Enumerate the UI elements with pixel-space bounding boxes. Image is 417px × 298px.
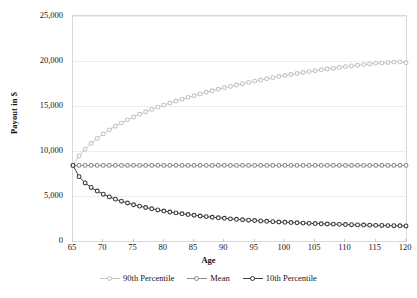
y-axis-tick-labels: 05,00010,00015,00020,00025,000 bbox=[0, 0, 68, 248]
data-point-marker bbox=[331, 66, 335, 70]
data-point-marker bbox=[235, 217, 239, 221]
x-tick-mark bbox=[133, 239, 134, 242]
data-point-marker bbox=[162, 164, 166, 168]
data-point-marker bbox=[295, 72, 299, 76]
x-tick-mark bbox=[344, 239, 345, 242]
data-point-marker bbox=[77, 175, 81, 179]
data-point-marker bbox=[271, 220, 275, 224]
series-mean bbox=[71, 164, 408, 168]
data-point-marker bbox=[344, 223, 348, 227]
data-point-marker bbox=[356, 63, 360, 67]
data-point-marker bbox=[222, 86, 226, 90]
y-tick-label: 5,000 bbox=[44, 190, 63, 200]
data-point-marker bbox=[162, 103, 166, 107]
x-tick-mark bbox=[72, 239, 73, 242]
data-point-marker bbox=[307, 221, 311, 225]
data-point-marker bbox=[356, 223, 360, 227]
legend-swatch bbox=[100, 274, 120, 282]
data-point-marker bbox=[180, 164, 184, 168]
x-tick-label: 75 bbox=[128, 242, 137, 252]
data-point-marker bbox=[107, 164, 111, 168]
data-point-marker bbox=[198, 164, 202, 168]
data-point-marker bbox=[307, 70, 311, 74]
data-point-marker bbox=[295, 164, 299, 168]
x-tick-label: 70 bbox=[98, 242, 107, 252]
data-point-marker bbox=[380, 164, 384, 168]
x-tick-label: 85 bbox=[189, 242, 198, 252]
data-point-marker bbox=[186, 213, 190, 217]
data-point-marker bbox=[126, 164, 130, 168]
data-point-marker bbox=[289, 73, 293, 77]
data-point-marker bbox=[101, 132, 105, 136]
x-tick-label: 65 bbox=[68, 242, 77, 252]
data-point-marker bbox=[301, 164, 305, 168]
data-point-marker bbox=[162, 209, 166, 213]
data-point-marker bbox=[113, 164, 117, 168]
data-point-marker bbox=[150, 108, 154, 112]
series-line bbox=[73, 62, 406, 165]
data-point-marker bbox=[204, 215, 208, 219]
plot-area bbox=[72, 15, 407, 242]
data-point-marker bbox=[210, 164, 214, 168]
data-point-marker bbox=[398, 60, 402, 64]
data-point-marker bbox=[186, 95, 190, 99]
data-point-marker bbox=[83, 147, 87, 151]
data-point-marker bbox=[89, 186, 93, 190]
data-point-marker bbox=[350, 223, 354, 227]
data-point-marker bbox=[241, 164, 245, 168]
y-tick-label: 15,000 bbox=[40, 100, 63, 110]
data-point-marker bbox=[277, 75, 281, 79]
data-point-marker bbox=[386, 61, 390, 65]
data-point-marker bbox=[325, 67, 329, 71]
data-point-marker bbox=[362, 223, 366, 227]
data-point-marker bbox=[138, 112, 142, 116]
data-point-marker bbox=[253, 79, 257, 83]
data-point-marker bbox=[392, 60, 396, 64]
data-point-marker bbox=[398, 224, 402, 228]
x-tick-mark bbox=[284, 239, 285, 242]
data-point-marker bbox=[277, 220, 281, 224]
data-point-marker bbox=[198, 214, 202, 218]
legend-entry[interactable]: 10th Percentile bbox=[243, 273, 317, 283]
data-point-marker bbox=[338, 222, 342, 226]
x-tick-mark bbox=[163, 239, 164, 242]
data-point-marker bbox=[192, 213, 196, 217]
data-point-marker bbox=[113, 124, 117, 128]
data-point-marker bbox=[331, 164, 335, 168]
data-point-marker bbox=[325, 222, 329, 226]
data-point-marker bbox=[253, 164, 257, 168]
data-point-marker bbox=[362, 164, 366, 168]
data-point-marker bbox=[253, 219, 257, 223]
data-point-marker bbox=[216, 216, 220, 220]
data-point-marker bbox=[138, 164, 142, 168]
data-point-marker bbox=[150, 164, 154, 168]
data-point-marker bbox=[192, 94, 196, 98]
x-tick-mark bbox=[405, 239, 406, 242]
data-point-marker bbox=[132, 203, 136, 207]
data-point-marker bbox=[222, 216, 226, 220]
data-point-marker bbox=[265, 164, 269, 168]
legend-entry[interactable]: Mean bbox=[187, 273, 229, 283]
data-point-marker bbox=[83, 164, 87, 168]
data-point-marker bbox=[289, 221, 293, 225]
data-point-marker bbox=[138, 204, 142, 208]
data-point-marker bbox=[404, 224, 408, 228]
data-point-marker bbox=[204, 90, 208, 94]
x-tick-mark bbox=[102, 239, 103, 242]
data-point-marker bbox=[331, 222, 335, 226]
legend-entry[interactable]: 90th Percentile bbox=[100, 273, 174, 283]
data-point-marker bbox=[325, 164, 329, 168]
data-point-marker bbox=[392, 224, 396, 228]
series-line bbox=[73, 165, 406, 226]
data-point-marker bbox=[301, 221, 305, 225]
data-point-marker bbox=[132, 115, 136, 119]
data-point-marker bbox=[101, 192, 105, 196]
chart-legend: 90th PercentileMean10th Percentile bbox=[0, 273, 417, 283]
x-tick-label: 105 bbox=[308, 242, 321, 252]
data-point-marker bbox=[192, 164, 196, 168]
data-point-marker bbox=[259, 219, 263, 223]
data-point-marker bbox=[168, 164, 172, 168]
legend-label: 10th Percentile bbox=[266, 273, 317, 283]
data-point-marker bbox=[380, 224, 384, 228]
data-point-marker bbox=[107, 195, 111, 199]
